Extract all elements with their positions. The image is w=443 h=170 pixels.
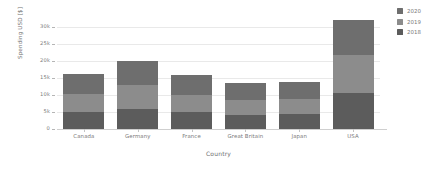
legend-swatch-icon <box>397 29 403 35</box>
y-axis-tick-mark <box>52 95 55 96</box>
legend-item-2018[interactable]: 2018 <box>397 29 421 35</box>
gridline <box>57 27 380 28</box>
bar-segment-2019[interactable] <box>225 100 266 115</box>
bar-stack[interactable] <box>171 75 212 129</box>
bar-segment-2018[interactable] <box>117 109 158 129</box>
gridline <box>57 61 380 62</box>
chart-figure: Spending USD [$] 05k10k15k20k25k30k Cana… <box>0 0 443 170</box>
bar-stack[interactable] <box>333 20 374 129</box>
legend-swatch-icon <box>397 8 403 14</box>
bar-segment-2020[interactable] <box>333 20 374 56</box>
legend-label: 2019 <box>407 19 421 25</box>
bar-segment-2020[interactable] <box>63 74 104 93</box>
y-axis-tick-label: 10k <box>40 92 50 97</box>
bar-segment-2018[interactable] <box>63 112 104 129</box>
x-axis-tick-mark <box>138 129 139 132</box>
chart-legend: 202020192018 <box>397 8 421 35</box>
gridline <box>57 78 380 79</box>
bar-segment-2020[interactable] <box>117 61 158 85</box>
x-axis-tick-label: Canada <box>57 133 111 139</box>
x-axis-tick-mark <box>84 129 85 132</box>
y-axis-tick-label: 30k <box>40 24 50 29</box>
x-axis-tick-mark <box>245 129 246 132</box>
bar-segment-2020[interactable] <box>171 75 212 94</box>
x-axis-tick-mark <box>192 129 193 132</box>
x-axis-tick-mark <box>353 129 354 132</box>
y-axis-tick-label: 25k <box>40 41 50 46</box>
legend-swatch-icon <box>397 19 403 25</box>
x-axis-tick-label: France <box>165 133 219 139</box>
bar-stack[interactable] <box>63 74 104 129</box>
legend-label: 2018 <box>407 29 421 35</box>
bar-segment-2019[interactable] <box>279 99 320 114</box>
x-axis-title: Country <box>57 150 380 157</box>
y-axis-tick-mark <box>52 112 55 113</box>
x-axis-tick-label: Germany <box>111 133 165 139</box>
bar-segment-2020[interactable] <box>225 83 266 100</box>
y-axis-tick-mark <box>52 78 55 79</box>
bar-segment-2020[interactable] <box>279 82 320 99</box>
legend-label: 2020 <box>407 8 421 14</box>
y-axis-title: Spending USD [$] <box>17 0 23 93</box>
x-axis-line <box>57 129 387 130</box>
bar-stack[interactable] <box>279 82 320 129</box>
y-axis-tick-label: 20k <box>40 58 50 63</box>
x-axis-tick-mark <box>299 129 300 132</box>
legend-item-2019[interactable]: 2019 <box>397 19 421 25</box>
bar-segment-2019[interactable] <box>63 94 104 112</box>
legend-item-2020[interactable]: 2020 <box>397 8 421 14</box>
bar-segment-2019[interactable] <box>171 95 212 112</box>
y-axis-tick-label: 5k <box>43 109 50 114</box>
y-axis-tick-mark <box>52 129 55 130</box>
gridline <box>57 112 380 113</box>
y-axis-tick-label: 15k <box>40 75 50 80</box>
y-axis-tick-label: 0 <box>47 126 50 131</box>
y-axis-tick-mark <box>52 44 55 45</box>
plot-area <box>57 18 380 129</box>
bar-segment-2018[interactable] <box>333 93 374 129</box>
y-axis-tick-mark <box>52 27 55 28</box>
y-axis-tick-labels: 05k10k15k20k25k30k <box>26 18 50 129</box>
bar-segment-2018[interactable] <box>225 115 266 129</box>
gridline <box>57 44 380 45</box>
bar-segment-2018[interactable] <box>171 112 212 129</box>
gridline <box>57 95 380 96</box>
bar-stack[interactable] <box>117 61 158 129</box>
x-axis-tick-label: Japan <box>272 133 326 139</box>
bar-stack[interactable] <box>225 83 266 129</box>
bar-segment-2019[interactable] <box>117 85 158 109</box>
bar-segment-2018[interactable] <box>279 114 320 129</box>
bar-segment-2019[interactable] <box>333 55 374 93</box>
x-axis-tick-label: USA <box>326 133 380 139</box>
y-axis-tick-mark <box>52 61 55 62</box>
x-axis-tick-label: Great Britain <box>219 133 273 139</box>
